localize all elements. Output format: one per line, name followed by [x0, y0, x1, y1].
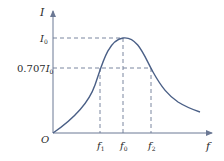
i0-label: I0	[39, 33, 48, 45]
y-axis-label: I	[39, 6, 45, 19]
f0-label: f0	[119, 140, 128, 152]
origin-label: O	[41, 134, 49, 145]
resonance-curve	[53, 38, 200, 133]
resonance-curve-diagram: I f O I0 0.707I0 f1 f0 f2	[0, 0, 224, 161]
f2-label: f2	[147, 140, 156, 152]
f1-label: f1	[96, 140, 105, 152]
i707-label: 0.707I0	[17, 63, 54, 75]
x-axis-label: f	[205, 140, 212, 153]
